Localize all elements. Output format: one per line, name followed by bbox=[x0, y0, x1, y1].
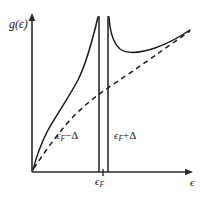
fermi-energy-label: ϵF bbox=[95, 176, 104, 187]
gap-upper-edge-subscript: F bbox=[118, 134, 123, 143]
normal-metal-dos-curve bbox=[34, 31, 190, 168]
x-axis-label: ϵ bbox=[190, 177, 194, 188]
gap-lower-edge-label: ϵF−Δ bbox=[56, 130, 78, 141]
gap-upper-edge-label: ϵF+Δ bbox=[114, 130, 136, 141]
gap-upper-edge-suffix: +Δ bbox=[123, 129, 136, 141]
gap-lower-edge-suffix: −Δ bbox=[65, 129, 78, 141]
x-axis-arrow-icon bbox=[185, 169, 193, 176]
gap-lower-edge-subscript: F bbox=[60, 134, 65, 143]
figure-canvas: g(ϵ) ϵ ϵF ϵF−Δ ϵF+Δ bbox=[0, 0, 202, 197]
superconducting-dos-upper-branch bbox=[109, 17, 190, 52]
fermi-energy-label-subscript: F bbox=[99, 180, 104, 189]
density-of-states-plot bbox=[0, 0, 202, 197]
y-axis-label: g(ϵ) bbox=[9, 18, 28, 30]
superconducting-dos-lower-branch bbox=[33, 17, 98, 170]
y-axis-arrow-icon bbox=[29, 13, 36, 21]
